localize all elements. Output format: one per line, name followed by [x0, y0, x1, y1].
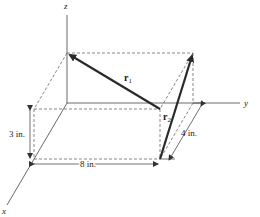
- vectors: [70, 55, 192, 159]
- vector-r2: [160, 56, 192, 159]
- depth-dimension-label: 4 in.: [181, 128, 197, 138]
- length-dimension-label: 8 in.: [80, 159, 96, 169]
- r1-label: r1: [124, 72, 132, 85]
- box-dashed-edges: [34, 53, 193, 159]
- z-axis-label: z: [63, 1, 68, 11]
- axes: [7, 15, 240, 205]
- y-axis-label: y: [243, 98, 248, 108]
- height-dimension-label: 3 in.: [9, 129, 25, 139]
- r2-label: r2: [163, 111, 171, 124]
- vector-r1: [70, 55, 160, 109]
- x-axis: [7, 103, 67, 205]
- x-axis-label: x: [1, 206, 6, 216]
- dimension-lines: [30, 103, 205, 164]
- vector-box-diagram: z y x r1 r2 3 in. 8 in. 4 in.: [0, 0, 260, 217]
